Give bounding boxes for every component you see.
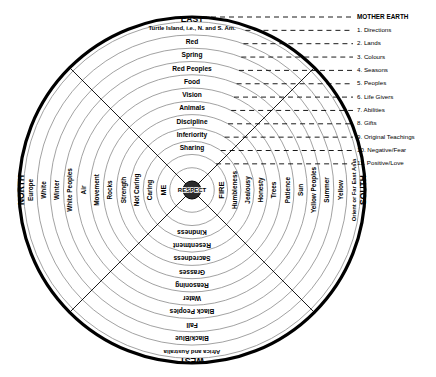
ring-label-east-8: Inferiority [177,131,208,139]
ring-label-south-5: Patience [284,176,291,203]
legend-item-9: 9. Original Teachings [357,134,415,140]
legend-item-11: 11. Positive/Love [357,160,404,166]
quadrant-label-north: NORTH [16,175,26,205]
ring-label-north-8: Not Caring [133,174,141,207]
legend-item-10: 10. Negative/Fear [357,147,406,153]
legend-item-1: 1. Directions [357,27,391,33]
legend-item-5: 5. Peoples [357,80,386,86]
ring-label-south-6: Trees [270,181,277,198]
legend-item-6: 6. Life Givers [357,94,393,100]
ring-label-north-2: Winter [53,180,60,200]
ring-label-west-8: Resentment [172,242,211,249]
legend-item-7: 7. Abilities [357,107,385,113]
ring-label-south-7: Honesty [257,177,265,203]
ring-label-east-9: Sharing [180,144,205,152]
ring-label-south-0: Orient or Far East Asia [351,158,357,221]
ring-label-east-7: Discipline [176,118,207,126]
ring-label-north-6: Rocks [106,180,113,200]
ring-label-west-7: Sacredness [173,255,210,262]
legend-label-mother-earth: MOTHER EARTH [357,14,408,20]
quadrant-label-south: SOUTH [358,175,368,205]
ring-label-south-fire: FIRE [217,181,226,198]
ring-label-west-6: Grasses [179,269,205,276]
legend-item-8: 8. Gifts [357,120,377,126]
ring-label-north-1: White [40,181,47,199]
ring-label-south-2: Summer [323,177,330,203]
ring-label-south-9: Humbleness [231,171,238,209]
legend-item-3: 3. Colours [357,54,385,60]
ring-label-east-3: Red Peoples [172,65,212,73]
ring-label-south-1: Yellow [337,180,344,200]
ring-label-north-0: Europe [27,179,35,201]
ring-label-west-5: Reasoning [175,281,209,289]
ring-label-east-0: Turtle Island, i.e., N. and S. Am. [148,25,235,31]
ring-label-east-6: Animals [179,104,205,111]
ring-label-east-2: Spring [182,51,203,59]
ring-label-north-5: Movement [93,173,100,205]
ring-label-west-4: Water [183,295,202,302]
legend-item-4: 4. Seasons [357,67,388,73]
ring-label-south-4: Sun [297,184,304,196]
ring-label-north-9: Caring [146,180,154,200]
legend-item-2: 2. Lands [357,40,381,46]
ring-label-north-7: Strength [120,177,128,203]
ring-label-north-me: ME [159,184,168,195]
ring-label-south-3: Yellow Peoples [310,166,318,213]
ring-label-north-4: Air [80,185,87,194]
ring-label-north-3: White Peoples [66,168,74,212]
ring-label-west-0: Africa and Australia [163,349,220,355]
ring-label-east-1: Red [186,38,198,45]
quadrant-label-west: WEST [179,356,204,366]
ring-label-east-4: Food [184,78,200,85]
ring-label-west-9: Kindness [177,229,207,236]
ring-label-east-5: Vision [182,91,202,98]
quadrant-label-east: EAST [181,14,204,24]
ring-label-west-3: Black Peoples [169,307,214,315]
ring-label-west-1: Black/Blue [175,335,209,342]
center-hub-label: RESPECT [178,187,207,193]
ring-label-south-8: Jealousy [244,176,252,204]
ring-label-west-2: Fall [186,322,198,329]
